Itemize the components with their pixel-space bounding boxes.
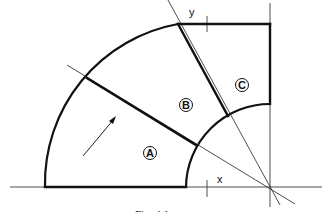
svg-text:C: C xyxy=(238,79,246,91)
bend-diagram: A B C y x Fig. 4.1 xyxy=(0,0,327,212)
divider-a-b xyxy=(87,78,196,145)
y-axis-label: y xyxy=(189,6,195,18)
flow-arrow-icon xyxy=(83,119,114,156)
outer-arc xyxy=(45,24,178,187)
region-label-c: C xyxy=(236,79,249,92)
region-label-b: B xyxy=(180,99,193,112)
arrowhead-icon xyxy=(109,116,116,124)
region-label-a: A xyxy=(144,147,157,160)
figure-caption: Fig. 4.1 xyxy=(135,208,169,212)
x-axis-label: x xyxy=(217,173,223,185)
svg-text:B: B xyxy=(182,99,190,111)
svg-text:A: A xyxy=(146,147,154,159)
